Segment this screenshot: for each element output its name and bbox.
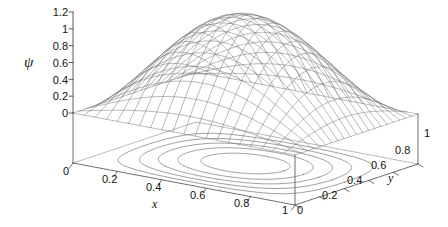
z-tick-label: 0 [40, 108, 68, 119]
base-plane-axes [70, 114, 424, 210]
surface-mesh-group [73, 13, 418, 155]
x-tick-label: 0.8 [234, 198, 249, 209]
z-tick-label: 0.8 [40, 41, 68, 52]
z-axis-group [69, 12, 73, 163]
x-axis-title: x [152, 198, 157, 210]
y-tick-label: 1 [424, 128, 430, 139]
z-tick-label: 0.4 [40, 75, 68, 86]
z-tick-label: 1.2 [40, 7, 68, 18]
y-tick-label: 0.2 [322, 190, 337, 201]
x-tick-label: 1 [282, 205, 288, 216]
z-tick-label: 0.2 [40, 91, 68, 102]
x-tick-label: 0.2 [102, 174, 117, 185]
z-axis-title: ψ [24, 56, 33, 68]
surface-plot-figure: 1.2 1 0.8 0.6 0.4 0.2 0 ψ 0 0.2 0.4 0.6 … [0, 0, 448, 227]
z-tick-label: 0.6 [40, 58, 68, 69]
y-tick-label: 0.4 [347, 175, 362, 186]
y-tick-label: 0 [297, 205, 303, 216]
z-tick-label: 1 [40, 24, 68, 35]
x-tick-label: 0 [63, 166, 69, 177]
x-tick-label: 0.4 [146, 182, 161, 193]
y-tick-label: 0.8 [395, 145, 410, 156]
x-tick-label: 0.6 [190, 190, 205, 201]
y-axis-title: y [388, 172, 393, 184]
y-tick-label: 0.6 [371, 160, 386, 171]
